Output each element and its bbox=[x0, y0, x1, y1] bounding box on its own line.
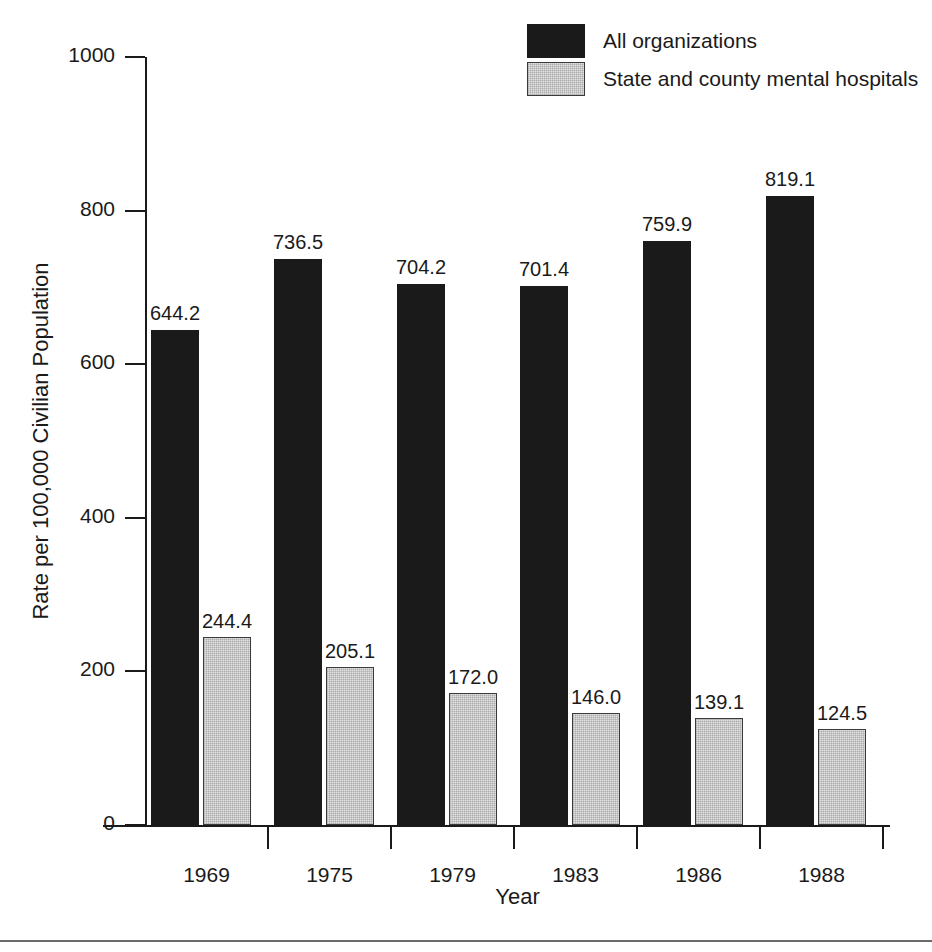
y-axis-title: Rate per 100,000 Civilian Population bbox=[28, 57, 64, 825]
x-axis-tick bbox=[882, 827, 884, 849]
y-axis-tick: 600 bbox=[125, 363, 145, 365]
bar-chart: All organizations State and county menta… bbox=[0, 0, 932, 952]
plot-area: 02004006008001000 644.2244.4736.5205.170… bbox=[145, 57, 890, 825]
bar-1975-series-1: 736.5 bbox=[274, 259, 322, 825]
bar-value-label: 139.1 bbox=[694, 691, 744, 714]
y-axis-tick-label: 200 bbox=[80, 657, 115, 681]
y-axis-tick: 800 bbox=[125, 210, 145, 212]
bar-value-label: 124.5 bbox=[817, 702, 867, 725]
bottom-divider bbox=[0, 940, 932, 942]
y-axis-tick-label: 1000 bbox=[68, 43, 115, 67]
y-axis-tick: 400 bbox=[125, 517, 145, 519]
bar-1986-series-2: 139.1 bbox=[695, 718, 743, 825]
bar-value-label: 244.4 bbox=[202, 610, 252, 633]
x-axis-tick bbox=[636, 827, 638, 849]
y-axis-line bbox=[145, 57, 147, 825]
y-axis-tick: 200 bbox=[125, 670, 145, 672]
bar-1979-series-2: 172.0 bbox=[449, 693, 497, 825]
y-axis-tick-label: 800 bbox=[80, 197, 115, 221]
bar-value-label: 644.2 bbox=[150, 302, 200, 325]
y-axis-tick: 1000 bbox=[125, 56, 145, 58]
bar-value-label: 704.2 bbox=[396, 256, 446, 279]
bar-1975-series-2: 205.1 bbox=[326, 667, 374, 825]
bar-1988-series-2: 124.5 bbox=[818, 729, 866, 825]
bar-1986-series-1: 759.9 bbox=[643, 241, 691, 825]
bar-value-label: 146.0 bbox=[571, 686, 621, 709]
x-axis-tick bbox=[759, 827, 761, 849]
y-axis-tick-label: 0 bbox=[103, 811, 115, 835]
bar-1983-series-2: 146.0 bbox=[572, 713, 620, 825]
x-axis-tick bbox=[390, 827, 392, 849]
y-axis-tick-label: 600 bbox=[80, 350, 115, 374]
x-axis-tick bbox=[267, 827, 269, 849]
bar-value-label: 759.9 bbox=[642, 213, 692, 236]
legend-swatch-dark-icon bbox=[527, 24, 585, 58]
bar-1988-series-1: 819.1 bbox=[766, 196, 814, 825]
bar-1979-series-1: 704.2 bbox=[397, 284, 445, 825]
bar-1983-series-1: 701.4 bbox=[520, 286, 568, 825]
bar-value-label: 205.1 bbox=[325, 640, 375, 663]
bar-value-label: 172.0 bbox=[448, 666, 498, 689]
bar-value-label: 819.1 bbox=[765, 168, 815, 191]
legend-label-all-organizations: All organizations bbox=[603, 29, 757, 53]
legend-item-all-organizations: All organizations bbox=[527, 22, 918, 60]
bar-value-label: 736.5 bbox=[273, 231, 323, 254]
x-axis-line bbox=[103, 825, 890, 827]
bar-value-label: 701.4 bbox=[519, 258, 569, 281]
y-axis-tick: 0 bbox=[125, 824, 145, 826]
y-axis-title-wrap: Rate per 100,000 Civilian Population bbox=[18, 57, 54, 825]
x-axis-tick bbox=[513, 827, 515, 849]
bar-1969-series-2: 244.4 bbox=[203, 637, 251, 825]
y-axis-tick-label: 400 bbox=[80, 504, 115, 528]
bar-1969-series-1: 644.2 bbox=[151, 330, 199, 825]
x-axis-title: Year bbox=[145, 884, 890, 910]
